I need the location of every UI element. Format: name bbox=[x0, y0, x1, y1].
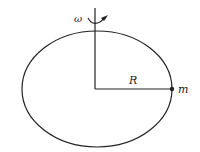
rotation-arrow-icon bbox=[88, 15, 108, 23]
mass-label: m bbox=[178, 83, 188, 96]
omega-label: ω bbox=[74, 13, 82, 24]
radius-label: R bbox=[128, 74, 137, 87]
diagram-canvas: ω R m bbox=[0, 0, 200, 152]
mass-dot bbox=[170, 87, 174, 91]
